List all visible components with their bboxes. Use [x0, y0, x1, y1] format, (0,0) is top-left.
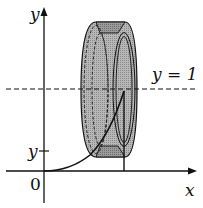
origin-label: 0 [30, 174, 41, 194]
y-tick-label: y [27, 141, 38, 161]
line-label: y = 1 [151, 64, 197, 84]
y-axis-label: y [29, 4, 40, 24]
x-axis-label: x [185, 180, 195, 200]
shell-volume-diagram: y x 0 y y = 1 [0, 0, 203, 208]
y-axis [41, 7, 48, 203]
